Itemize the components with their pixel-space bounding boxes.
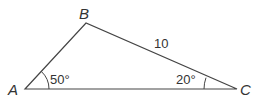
triangle-diagram: A B C 50° 20° 10 xyxy=(0,0,256,100)
angle-arc-a xyxy=(41,71,49,89)
vertex-label-c: C xyxy=(240,81,251,98)
vertex-label-a: A xyxy=(7,81,18,98)
angle-arc-c xyxy=(204,78,206,89)
vertex-label-b: B xyxy=(79,5,89,22)
side-label-bc: 10 xyxy=(154,36,168,51)
angle-label-c: 20° xyxy=(176,72,196,87)
angle-label-a: 50° xyxy=(50,72,70,87)
